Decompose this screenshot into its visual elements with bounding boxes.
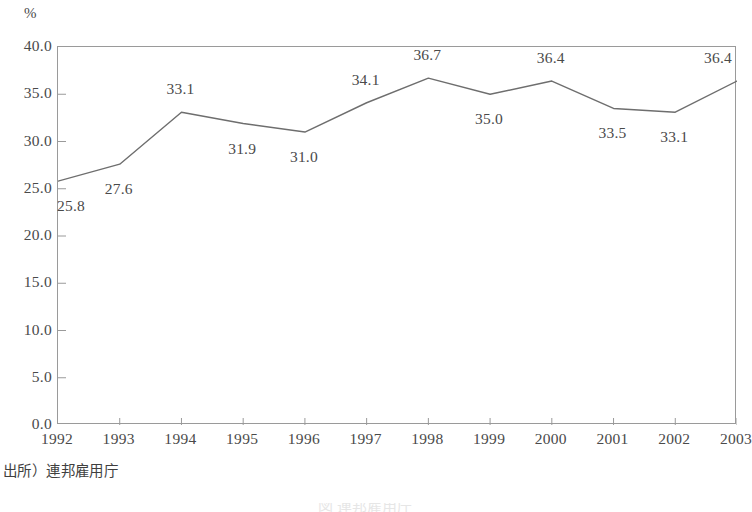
y-axis-tick-label: 10.0 <box>0 321 52 339</box>
source-note: 出所）連邦雇用庁 <box>3 459 118 480</box>
x-axis-tick-label: 1996 <box>288 430 320 448</box>
y-axis-tick-labels: 40.035.030.025.020.015.010.05.00.0 <box>0 46 52 424</box>
y-axis-tick-label: 30.0 <box>0 132 52 150</box>
y-axis-tick-label: 25.0 <box>0 179 52 197</box>
y-axis-tick-label: 35.0 <box>0 84 52 102</box>
x-axis-tick-label: 1997 <box>350 430 382 448</box>
y-axis-unit-label: % <box>24 5 37 22</box>
x-axis-tick-labels: 1992199319941995199619971998199920002001… <box>57 430 736 454</box>
y-axis-ticks <box>58 94 66 378</box>
x-axis-tick-label: 2002 <box>658 430 690 448</box>
y-axis-tick-label: 5.0 <box>0 368 52 386</box>
x-axis-tick-label: 1994 <box>164 430 196 448</box>
plot-area <box>57 46 736 424</box>
data-line <box>58 78 737 181</box>
clipped-caption: 図 連邦雇用庁 <box>130 503 600 512</box>
x-axis-tick-label: 1998 <box>411 430 443 448</box>
x-axis-tick-label: 1995 <box>226 430 258 448</box>
x-axis-tick-label: 1993 <box>103 430 135 448</box>
x-axis-tick-label: 2001 <box>596 430 628 448</box>
line-series-svg <box>58 47 737 425</box>
x-axis-tick-label: 2000 <box>535 430 567 448</box>
y-axis-tick-label: 15.0 <box>0 273 52 291</box>
x-axis-tick-label: 1999 <box>473 430 505 448</box>
x-axis-ticks <box>120 418 737 425</box>
y-axis-tick-label: 40.0 <box>0 37 52 55</box>
x-axis-tick-label: 1992 <box>41 430 73 448</box>
x-axis-tick-label: 2003 <box>720 430 752 448</box>
y-axis-tick-label: 20.0 <box>0 226 52 244</box>
